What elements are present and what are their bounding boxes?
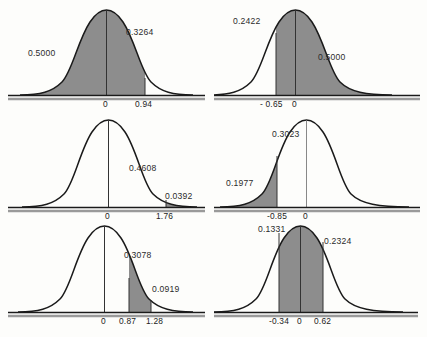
area-label-right-3: 0.0392 xyxy=(165,191,193,201)
tick-label-1-1: 0.94 xyxy=(135,99,152,109)
area-label-right-5: 0.0919 xyxy=(152,284,180,294)
chart-panel-6: 0.1331 0.2324 -0.34 0 0.62 xyxy=(214,224,427,336)
area-label-right-2: 0.5000 xyxy=(318,52,346,62)
area-label-right-6: 0.2324 xyxy=(324,236,352,246)
chart-panel-2: 0.2422 0.5000 - 0.65 0 xyxy=(214,0,427,112)
tick-label-4-0: -0.85 xyxy=(267,211,287,221)
shaded-area-4 xyxy=(220,120,409,207)
area-label-right-1: 0.3264 xyxy=(126,27,154,37)
tick-label-2-0: - 0.65 xyxy=(260,99,283,109)
chart-panel-1: 0.5000 0.3264 0 0.94 xyxy=(0,0,213,112)
tick-label-5-2: 1.28 xyxy=(146,316,163,326)
tick-label-6-2: 0.62 xyxy=(314,316,331,326)
shaded-area-5 xyxy=(18,226,193,312)
area-label-right-4: 0.1977 xyxy=(226,178,254,188)
normal-curve-svg-4 xyxy=(214,112,427,224)
tick-label-6-0: -0.34 xyxy=(269,316,289,326)
shaded-area-6 xyxy=(214,226,403,312)
tick-label-1-0: 0 xyxy=(103,99,108,109)
chart-panel-5: 0.3078 0.0919 0 0.87 1.28 xyxy=(0,224,213,336)
area-label-left-6: 0.1331 xyxy=(258,224,286,234)
area-label-left-1: 0.5000 xyxy=(28,48,56,58)
tick-label-6-1: 0 xyxy=(297,316,302,326)
tick-label-5-0: 0 xyxy=(101,316,106,326)
tick-label-4-1: 0 xyxy=(303,211,308,221)
area-label-left-5: 0.3078 xyxy=(124,250,152,260)
normal-curve-svg-3 xyxy=(0,112,213,224)
area-label-left-3: 0.4608 xyxy=(129,163,157,173)
area-label-left-2: 0.2422 xyxy=(233,16,261,26)
area-label-left-4: 0.3023 xyxy=(272,129,300,139)
normal-curve-path-5 xyxy=(18,226,193,312)
normal-curve-path-4 xyxy=(220,120,409,207)
tick-label-3-1: 1.76 xyxy=(156,211,173,221)
normal-curve-svg-5 xyxy=(0,224,213,337)
chart-panel-4: 0.3023 0.1977 -0.85 0 xyxy=(214,112,427,224)
figure-sheet: 0.5000 0.3264 0 0.94 0.2422 0.5000 - 0.6… xyxy=(0,0,427,337)
tick-label-3-0: 0 xyxy=(105,211,110,221)
tick-label-2-1: 0 xyxy=(292,99,297,109)
tick-label-5-1: 0.87 xyxy=(119,316,136,326)
chart-panel-3: 0.4608 0.0392 0 1.76 xyxy=(0,112,213,224)
